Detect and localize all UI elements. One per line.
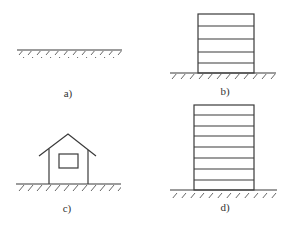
panel-label-a: a) — [64, 87, 73, 100]
panel-label-c: c) — [63, 202, 72, 215]
panel-a: a) — [17, 50, 122, 100]
panel-d: d) — [170, 105, 277, 214]
ground-hatch — [170, 191, 277, 198]
ground-hatch — [16, 185, 121, 192]
panel-b: b) — [170, 14, 276, 98]
building-outline — [198, 14, 254, 73]
ground-hatch — [170, 74, 276, 81]
panel-c: c) — [16, 134, 121, 215]
panel-label-d: d) — [220, 201, 230, 214]
window — [59, 154, 78, 168]
ground-hatch — [17, 51, 122, 58]
diagram-canvas: a) b) c) d) — [0, 0, 290, 227]
panel-label-b: b) — [220, 85, 230, 98]
